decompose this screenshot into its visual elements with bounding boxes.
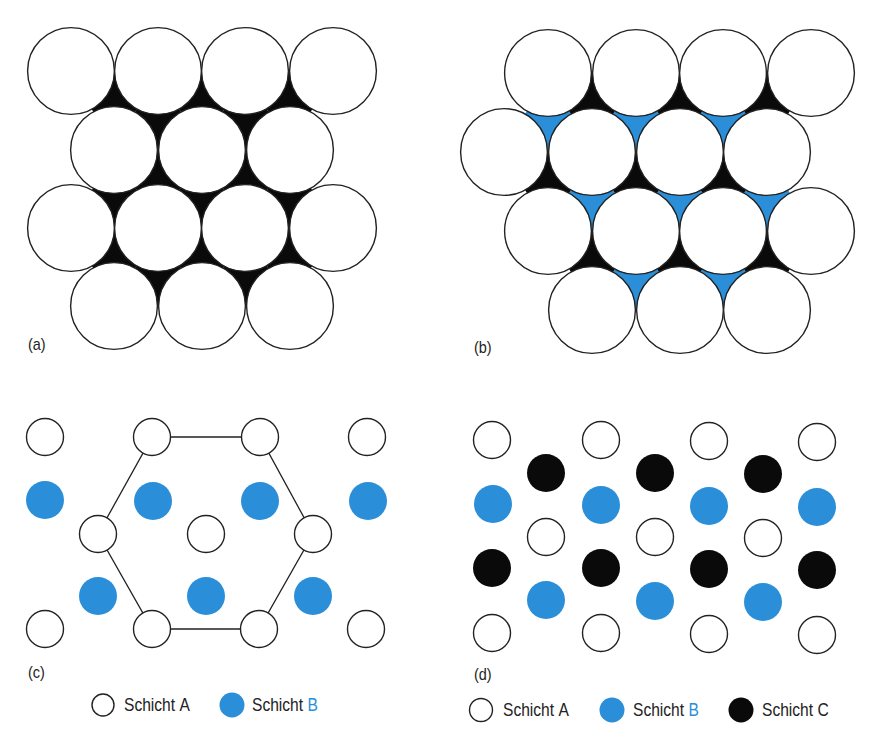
atom-layer-a — [115, 185, 202, 272]
atom-layer-a — [680, 188, 767, 275]
legend-d-layer-a: Schicht A — [503, 699, 569, 721]
legend-d-layer-a-letter: A — [558, 699, 568, 720]
atom-layer-a — [134, 611, 171, 648]
legend-d-layer-c-icon — [729, 698, 754, 723]
atoms — [28, 28, 377, 350]
legend-d-layer-a-text: Schicht — [503, 699, 554, 720]
legend-d-layer-b: Schicht B — [633, 699, 699, 721]
packing-diagram — [0, 0, 872, 749]
panel-label-b: (b) — [474, 338, 492, 358]
atom-layer-a — [349, 419, 386, 456]
atom-layer-a — [505, 188, 592, 275]
atom-layer-a — [637, 519, 674, 556]
atom-layer-b — [241, 482, 279, 520]
atom-layer-b — [582, 486, 620, 524]
atom-layer-a — [115, 28, 202, 115]
atom-layer-a — [593, 188, 680, 275]
atom-layer-a — [134, 419, 171, 456]
atom-layer-a — [80, 516, 117, 553]
legend-c-layer-a-text: Schicht — [124, 694, 175, 715]
atom-layer-a — [188, 516, 225, 553]
atom-layer-a — [290, 28, 377, 115]
atom-layer-a — [593, 30, 680, 117]
atom-layer-b — [690, 487, 728, 525]
legend-c-layer-a-icon — [92, 694, 114, 716]
panel-label-a: (a) — [28, 335, 46, 355]
atom-layer-a — [27, 611, 64, 648]
atom-layer-b — [744, 583, 782, 621]
atom-layer-b — [134, 482, 172, 520]
atom-layer-a — [724, 109, 811, 196]
panel-label-c: (c) — [28, 663, 45, 683]
atom-layer-b — [79, 577, 117, 615]
atom-layer-a — [505, 30, 592, 117]
atom-layer-a — [745, 520, 782, 557]
atom-layer-c — [690, 550, 728, 588]
atom-layer-a — [583, 615, 620, 652]
panel-label-d: (d) — [474, 665, 492, 685]
atom-layer-c — [636, 454, 674, 492]
atom-layer-a — [27, 419, 64, 456]
atom-layer-b — [349, 482, 387, 520]
atom-layer-a — [202, 185, 289, 272]
atom-layer-a — [724, 267, 811, 354]
atom-layer-a — [290, 185, 377, 272]
atom-layer-a — [202, 28, 289, 115]
atom-layer-a — [768, 30, 855, 117]
atom-layer-a — [549, 267, 636, 354]
atom-layer-a — [247, 263, 334, 350]
atom-layer-b — [474, 485, 512, 523]
panel-b-two-void-types — [461, 30, 855, 354]
atom-layer-a — [71, 263, 158, 350]
atom-layer-b — [527, 581, 565, 619]
atom-layer-a — [691, 423, 728, 460]
legend-d-layer-b-letter: B — [688, 699, 698, 720]
atom-layer-a — [528, 519, 565, 556]
atom-layer-a — [768, 188, 855, 275]
atom-layer-a — [461, 109, 548, 196]
atom-layer-a — [247, 107, 334, 194]
atom-layer-a — [549, 109, 636, 196]
legend-c-layer-b-letter: B — [307, 694, 317, 715]
atom-layer-a — [583, 422, 620, 459]
atom-layer-c — [798, 551, 836, 589]
atom-layer-a — [637, 109, 724, 196]
atom-layer-a — [691, 616, 728, 653]
atom-layer-b — [636, 582, 674, 620]
atom-layer-c — [582, 549, 620, 587]
atom-layer-a — [241, 611, 278, 648]
atom-layer-b — [26, 481, 64, 519]
legend-c-layer-b-icon — [220, 693, 245, 718]
atom-layer-a — [242, 419, 279, 456]
panel-c-hexagonal-stacking — [26, 419, 387, 648]
atom-layer-a — [295, 516, 332, 553]
panel-d-cubic-stacking — [473, 422, 836, 654]
atom-layer-a — [799, 424, 836, 461]
atom-layer-a — [28, 185, 115, 272]
legend-c-layer-b: Schicht B — [252, 694, 318, 716]
atom-layer-a — [71, 107, 158, 194]
legend-d-layer-c: Schicht C — [762, 699, 829, 721]
legend-d-layer-c-text: Schicht — [762, 699, 813, 720]
atom-layer-a — [348, 611, 385, 648]
legend-d-layer-b-icon — [600, 698, 625, 723]
legend-d-layer-c-letter: C — [817, 699, 828, 720]
atom-layer-a — [637, 267, 724, 354]
atom-layer-b — [798, 488, 836, 526]
atom-layer-a — [159, 263, 246, 350]
atom-layer-a — [159, 107, 246, 194]
atom-layer-a — [680, 30, 767, 117]
legend-c-layer-b-text: Schicht — [252, 694, 303, 715]
atom-layer-c — [473, 549, 511, 587]
atom-layer-a — [799, 617, 836, 654]
panel-a-single-layer — [28, 28, 377, 350]
legend-c-layer-a: Schicht A — [124, 694, 190, 716]
legend-c-layer-a-letter: A — [179, 694, 189, 715]
atom-layer-a — [474, 615, 511, 652]
atom-layer-a — [474, 422, 511, 459]
atom-layer-c — [744, 455, 782, 493]
atom-layer-c — [527, 454, 565, 492]
atom-layer-b — [187, 577, 225, 615]
legend-d-layer-b-text: Schicht — [633, 699, 684, 720]
atom-layer-a — [28, 28, 115, 115]
